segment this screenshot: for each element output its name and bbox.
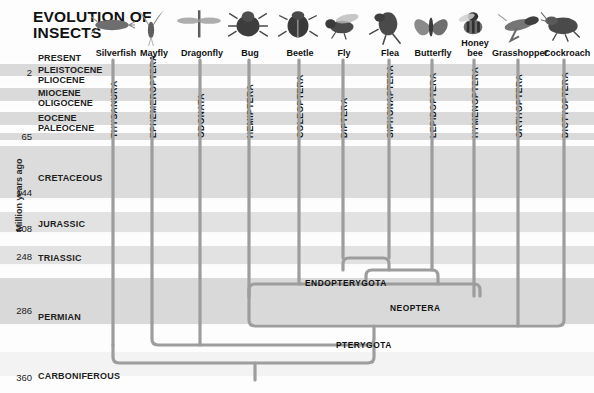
clade-label-endopterygota: ENDOPTERYGOTA: [305, 278, 387, 288]
phylogenetic-tree: [0, 0, 594, 393]
branch-diptera-flea: [343, 258, 389, 270]
branch-dictyoptera: [518, 60, 564, 326]
branch-pterygota: [113, 345, 374, 363]
clade-label-pterygota: PTERYGOTA: [336, 340, 392, 350]
evolution-of-insects-chart: EVOLUTION OF INSECTS Million years ago 2…: [0, 0, 594, 393]
clade-label-neoptera: NEOPTERA: [390, 303, 441, 313]
